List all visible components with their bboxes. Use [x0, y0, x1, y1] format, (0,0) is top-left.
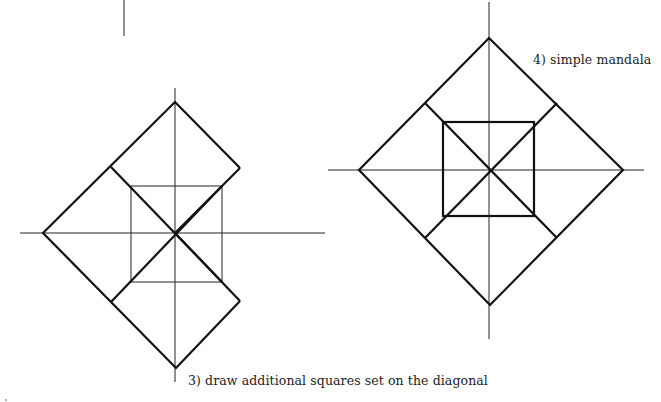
diagonal-square-edge-a	[111, 167, 222, 282]
diagonal-square-edge-b	[111, 186, 222, 302]
stray-dot	[5, 399, 7, 401]
step3-figure	[20, 88, 325, 382]
outer-diamond	[43, 102, 240, 368]
step3-caption: 3) draw additional squares set on the di…	[188, 373, 488, 388]
step4-caption: 4) simple mandala	[533, 52, 651, 67]
